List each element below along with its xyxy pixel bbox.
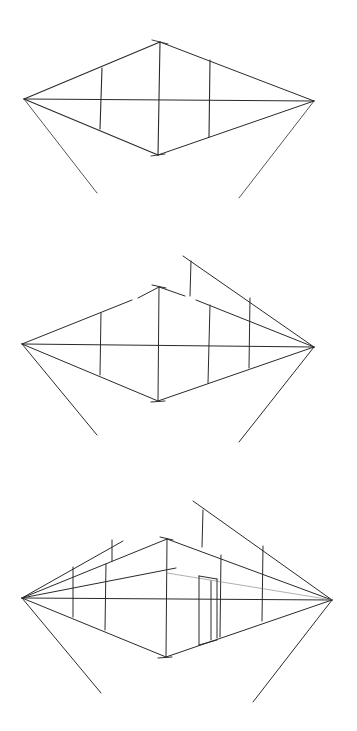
sketch-line bbox=[151, 401, 165, 402]
sketch-line bbox=[208, 305, 210, 383]
sketch-line bbox=[239, 347, 314, 442]
panel-2-extended-roof bbox=[22, 256, 314, 442]
sketch-line bbox=[249, 298, 250, 368]
sketch-line bbox=[22, 344, 314, 347]
panel-3-detailed-building bbox=[22, 501, 332, 702]
sketch-line bbox=[24, 99, 314, 101]
sketch-line bbox=[158, 657, 172, 658]
sketch-line bbox=[24, 99, 97, 193]
sketch-line bbox=[160, 42, 314, 101]
sketch-line bbox=[183, 256, 314, 347]
sketch-line bbox=[166, 600, 332, 657]
sketch-line bbox=[24, 99, 158, 155]
sketch-line bbox=[167, 539, 332, 600]
sketch-line bbox=[253, 600, 332, 702]
sketch-line bbox=[199, 640, 217, 645]
panel-1-basic-box bbox=[24, 40, 314, 198]
sketch-line bbox=[166, 539, 167, 657]
sketch-line bbox=[158, 287, 159, 401]
sketch-line bbox=[202, 510, 203, 547]
sketch-line bbox=[239, 101, 314, 198]
sketch-line bbox=[196, 300, 314, 347]
sketch-line bbox=[262, 546, 263, 621]
sketch-line bbox=[24, 42, 160, 99]
sketch-line bbox=[22, 568, 176, 598]
sketch-line bbox=[190, 261, 191, 296]
sketch-line bbox=[100, 313, 101, 375]
sketch-line bbox=[22, 598, 166, 657]
perspective-sketch-canvas bbox=[0, 0, 357, 731]
sketch-line bbox=[167, 573, 332, 600]
sketch-line bbox=[158, 347, 314, 401]
sketch-line bbox=[159, 287, 185, 296]
sketch-line bbox=[22, 598, 101, 693]
sketch-line bbox=[22, 344, 158, 401]
sketch-line bbox=[138, 287, 159, 298]
sketch-line bbox=[158, 101, 314, 155]
sketch-line bbox=[158, 42, 160, 155]
sketch-line bbox=[209, 60, 210, 137]
sketch-line bbox=[105, 564, 106, 630]
sketch-line bbox=[22, 539, 167, 598]
sketch-line bbox=[100, 68, 102, 129]
sketch-line bbox=[22, 344, 97, 435]
sketch-line bbox=[22, 300, 132, 344]
sketch-line bbox=[220, 555, 221, 637]
sketch-line bbox=[22, 598, 332, 600]
